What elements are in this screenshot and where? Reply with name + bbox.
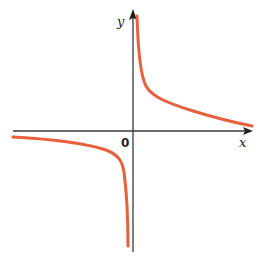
curve-right-branch [137,16,252,126]
y-axis-label: y [116,14,125,29]
origin-label: 0 [121,136,129,150]
x-axis-label: x [239,135,247,150]
curve-left-branch [13,137,128,246]
hyperbola-chart: y x 0 [0,0,267,264]
